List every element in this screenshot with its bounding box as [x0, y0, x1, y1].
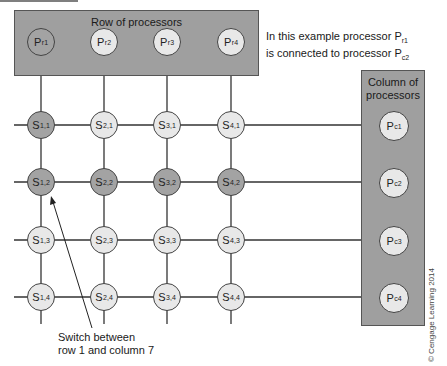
- column-box-title-1: Column of: [362, 76, 424, 89]
- switch-2-2: S2,2: [90, 168, 118, 196]
- switch-4-2: S4,2: [217, 168, 245, 196]
- switch-3-3: S3,3: [153, 226, 181, 254]
- switch-3-2: S3,2: [153, 168, 181, 196]
- example-note-line2: is connected to processor Pc2: [266, 47, 409, 64]
- crossbar-diagram: Row of processors Column of processors P…: [0, 0, 447, 366]
- example-note: In this example processor Pr1 is connect…: [266, 30, 409, 64]
- processor-c3: Pc3: [379, 226, 409, 256]
- processor-r2: Pr2: [90, 28, 118, 56]
- switch-3-4: S3,4: [153, 283, 181, 311]
- switch-3-1: S3,1: [153, 111, 181, 139]
- switch-callout-line2: row 1 and column 7: [58, 344, 154, 357]
- example-note-line1: In this example processor Pr1: [266, 30, 409, 47]
- processor-r1: Pr1: [27, 28, 55, 56]
- switch-4-4: S4,4: [217, 283, 245, 311]
- row-box-title: Row of processors: [15, 16, 258, 29]
- processor-c2: Pc2: [379, 168, 409, 198]
- processor-c1: Pc1: [379, 111, 409, 141]
- switch-2-3: S2,3: [90, 226, 118, 254]
- switch-4-3: S4,3: [217, 226, 245, 254]
- switch-2-4: S2,4: [90, 283, 118, 311]
- processor-r4: Pr4: [217, 28, 245, 56]
- switch-callout-line1: Switch between: [58, 331, 154, 344]
- processor-c4: Pc4: [379, 283, 409, 313]
- copyright-notice: © Cengage Learning 2014: [427, 268, 436, 362]
- switch-1-1: S1,1: [27, 111, 55, 139]
- switch-1-3: S1,3: [27, 226, 55, 254]
- switch-1-4: S1,4: [27, 283, 55, 311]
- switch-1-2: S1,2: [27, 168, 55, 196]
- switch-callout: Switch between row 1 and column 7: [58, 331, 154, 357]
- switch-4-1: S4,1: [217, 111, 245, 139]
- processor-r3: Pr3: [153, 28, 181, 56]
- column-box-title-2: processors: [362, 89, 424, 102]
- switch-2-1: S2,1: [90, 111, 118, 139]
